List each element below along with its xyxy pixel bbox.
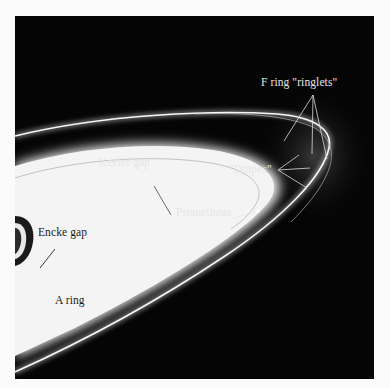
label-keeler-gap: Keeler gap [99,156,150,168]
label-encke-gap: Encke gap [38,226,87,238]
rings-illustration [15,16,374,379]
label-drapes: "Drapes" [229,163,272,175]
label-f-ring-ringlets: F ring "ringlets" [261,76,337,88]
saturn-rings-photo: F ring "ringlets" "Drapes" Keeler gap Pr… [15,16,374,379]
prometheus-moon [256,209,260,213]
label-prometheus: Prometheus [176,206,231,218]
label-a-ring: A ring [55,294,85,306]
